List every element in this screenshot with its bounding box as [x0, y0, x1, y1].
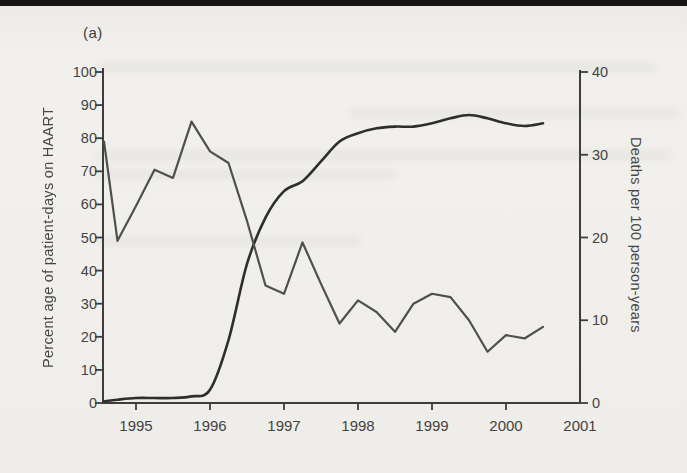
y-axis-tick-label: 20: [61, 328, 97, 346]
y-axis-tick-label: 100: [61, 63, 97, 81]
y-axis-tick-label: 60: [61, 195, 97, 213]
y2-axis-tick-label: 20: [592, 229, 628, 247]
y-axis-tick-label: 10: [61, 361, 97, 379]
x-axis-tick-label: 2000: [483, 417, 529, 435]
y-axis-tick-label: 80: [61, 129, 97, 147]
y-axis-tick-label: 50: [61, 229, 97, 247]
axes-frame: [103, 68, 580, 403]
y2-axis-tick-label: 30: [592, 146, 628, 164]
x-axis-tick-label: 1999: [409, 417, 455, 435]
chart-canvas: [0, 0, 687, 473]
y-axis-tick-label: 70: [61, 162, 97, 180]
x-axis-tick-label: 1997: [261, 417, 307, 435]
y-axis-tick-label: 90: [61, 96, 97, 114]
scanned-figure-page: (a) 010203040506070809010001020304019951…: [0, 0, 687, 473]
haart-mortality-line-chart: 0102030405060708090100010203040199519961…: [0, 0, 687, 473]
y2-axis-tick-label: 40: [592, 63, 628, 81]
haart-series-line: [104, 115, 543, 401]
x-axis-tick-label: 1996: [187, 417, 233, 435]
y-axis-tick-label: 0: [61, 394, 97, 412]
x-axis-tick-label: 1995: [113, 417, 159, 435]
left-axis-title: Percent age of patient-days on HAART: [38, 85, 58, 390]
x-axis-tick-label: 1998: [335, 417, 381, 435]
y-axis-tick-label: 30: [61, 295, 97, 313]
y-axis-tick-label: 40: [61, 262, 97, 280]
x-axis-tick-label: 2001: [557, 417, 603, 435]
right-axis-title: Deaths per 100 person-years: [626, 95, 646, 375]
deaths-series-line: [104, 122, 543, 352]
y2-axis-tick-label: 0: [592, 394, 628, 412]
y2-axis-tick-label: 10: [592, 311, 628, 329]
